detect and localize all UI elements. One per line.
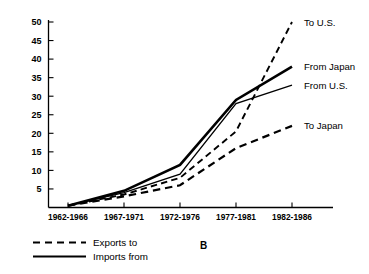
data-series-line [68,85,292,206]
y-tick-label: 35 [31,73,41,83]
series-group [68,22,292,206]
x-tick-label: 1972-1976 [160,212,200,222]
series-end-label: To Japan [304,120,343,131]
series-end-label: To U.S. [304,17,335,28]
y-tick-label: 10 [31,166,41,176]
series-end-label: From Japan [304,61,355,72]
legend-label: Exports to [93,237,138,248]
y-tick-label: 45 [31,36,41,46]
y-tick-label: 15 [31,147,41,157]
y-tick-label: 40 [31,54,41,64]
x-tick-label: 1977-1981 [216,212,256,222]
x-tick-label: 1962-1966 [48,212,88,222]
y-tick-label: 50 [31,17,41,27]
x-tick-group: 1962-19661967-19711972-19761977-19811982… [48,203,312,222]
chart-legend: Exports toImports from [33,237,148,262]
y-tick-label: 20 [31,129,41,139]
y-tick-group: 5101520253035404550 [31,17,53,194]
legend-label: Imports from [93,251,148,262]
line-chart-svg: 5101520253035404550 1962-19661967-197119… [0,0,369,274]
x-tick-label: 1967-1971 [104,212,144,222]
y-tick-label: 5 [36,184,41,194]
data-series-line [68,22,292,206]
y-axis: 5101520253035404550 [31,17,53,207]
series-end-label: From U.S. [304,80,348,91]
x-axis: 1962-19661967-19711972-19761977-19811982… [48,203,333,222]
series-label-group: To U.S.From JapanFrom U.S.To Japan [304,17,355,132]
x-tick-label: 1982-1986 [272,212,312,222]
chart-figure: 5101520253035404550 1962-19661967-197119… [0,0,369,274]
y-tick-label: 25 [31,110,41,120]
y-tick-label: 30 [31,92,41,102]
panel-label: B [200,240,207,251]
